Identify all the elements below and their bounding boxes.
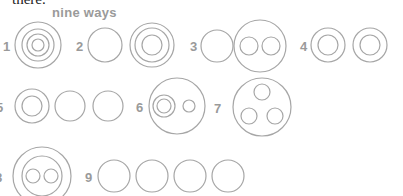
item-label-9: 9 [85,170,92,185]
item-label-6: 6 [136,100,143,115]
nine-ways-diagram: 1 2 3 4 5 6 [0,0,403,196]
item-6: 6 [136,78,205,134]
item-3: 3 [190,20,286,72]
item-label-8: 8 [0,170,2,185]
item-5: 5 [0,89,123,123]
item-8: 8 [0,147,71,196]
item-9: 9 [85,160,244,192]
item-label-4: 4 [300,39,308,54]
item-label-3: 3 [190,39,197,54]
item-7: 7 [214,78,291,136]
item-1: 1 [3,22,61,68]
item-label-1: 1 [3,39,10,54]
item-label-2: 2 [76,39,83,54]
item-4: 4 [300,28,387,62]
item-label-5: 5 [0,100,3,115]
item-2: 2 [76,23,174,67]
item-label-7: 7 [214,101,221,116]
